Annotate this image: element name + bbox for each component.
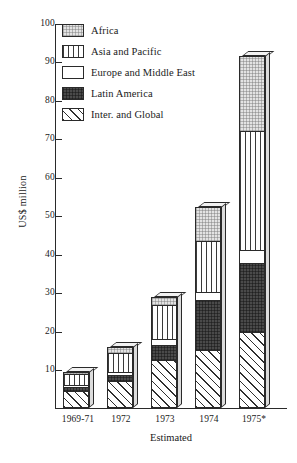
bar-segment-inter: [151, 360, 177, 408]
y-tick-label-60: 60: [7, 173, 55, 183]
bar-side-face: [221, 203, 226, 408]
bar-segment-latin: [239, 263, 265, 332]
bar-segment-inter: [107, 381, 133, 408]
y-tick-100: 100: [0, 24, 55, 25]
bar-side-face: [177, 293, 182, 408]
bar-segment-europe: [195, 292, 221, 300]
legend-swatch-inter-icon: [62, 108, 84, 121]
legend-label-latin-america: Latin America: [91, 88, 153, 99]
y-tick-label-20: 20: [7, 327, 55, 337]
bar-side-face: [133, 343, 138, 408]
bar-1974: [195, 207, 221, 408]
bar-segment-latin: [151, 345, 177, 360]
y-tick-40: 40: [0, 255, 55, 256]
legend-label-europe-and-middle-east: Europe and Middle East: [91, 67, 195, 78]
stacked-bar-chart: 100 90 80 70 60 50 40 30 20 10 US$ milli…: [0, 0, 297, 463]
x-tick-label-1973: 1973: [142, 414, 188, 424]
bar-side-face: [89, 368, 94, 408]
bar-1969-71: [63, 372, 89, 408]
x-tick-label-1974: 1974: [186, 414, 232, 424]
bar-segment-inter: [195, 350, 221, 408]
y-tick-50: 50: [0, 216, 55, 217]
legend: Africa Asia and Pacific Europe and Middl…: [62, 20, 195, 125]
legend-swatch-europe-icon: [62, 66, 84, 79]
bar-1972: [107, 347, 133, 408]
legend-item-inter-and-global: Inter. and Global: [62, 104, 195, 125]
bar-1975: [239, 56, 265, 408]
bar-segment-europe: [239, 250, 265, 263]
legend-item-europe-and-middle-east: Europe and Middle East: [62, 62, 195, 83]
y-tick-label-90: 90: [7, 57, 55, 67]
y-tick-10: 10: [0, 370, 55, 371]
bar-segment-inter: [239, 332, 265, 408]
x-axis-line: [55, 408, 287, 409]
y-tick-70: 70: [0, 139, 55, 140]
legend-item-latin-america: Latin America: [62, 83, 195, 104]
y-tick-label-10: 10: [7, 365, 55, 375]
legend-swatch-africa-icon: [62, 24, 84, 37]
y-tick-label-80: 80: [7, 96, 55, 106]
y-tick-label-40: 40: [7, 250, 55, 260]
y-tick-80: 80: [0, 101, 55, 102]
bar-segment-asia: [63, 374, 89, 385]
bar-segment-africa: [151, 297, 177, 305]
x-tick-label-1975: 1975*: [230, 414, 278, 424]
legend-label-inter-and-global: Inter. and Global: [91, 109, 164, 120]
bar-1973: [151, 297, 177, 408]
y-tick-60: 60: [0, 178, 55, 179]
legend-item-asia-and-pacific: Asia and Pacific: [62, 41, 195, 62]
bar-segment-asia: [195, 241, 221, 292]
y-tick-30: 30: [0, 293, 55, 294]
bar-segment-asia: [107, 353, 133, 372]
bar-segment-inter: [63, 391, 89, 408]
y-tick-90: 90: [0, 62, 55, 63]
legend-item-africa: Africa: [62, 20, 195, 41]
bar-side-face: [265, 52, 270, 408]
y-tick-20: 20: [0, 332, 55, 333]
y-tick-label-30: 30: [7, 288, 55, 298]
y-axis-title: US$ million: [17, 157, 28, 247]
bar-segment-asia: [151, 305, 177, 339]
legend-swatch-asia-icon: [62, 45, 84, 58]
y-tick-label-100: 100: [7, 19, 55, 29]
bar-segment-africa: [195, 207, 221, 241]
legend-swatch-latin-icon: [62, 87, 84, 100]
x-tick-label-1972: 1972: [98, 414, 144, 424]
y-tick-label-50: 50: [7, 211, 55, 221]
bar-segment-latin: [195, 300, 221, 350]
x-tick-label-1969-71: 1969-71: [52, 414, 104, 424]
legend-label-asia-and-pacific: Asia and Pacific: [91, 46, 161, 57]
bar-segment-asia: [239, 131, 265, 250]
bar-segment-africa: [239, 56, 265, 131]
x-axis-title: Estimated: [55, 432, 287, 443]
legend-label-africa: Africa: [91, 25, 118, 36]
y-tick-label-70: 70: [7, 134, 55, 144]
